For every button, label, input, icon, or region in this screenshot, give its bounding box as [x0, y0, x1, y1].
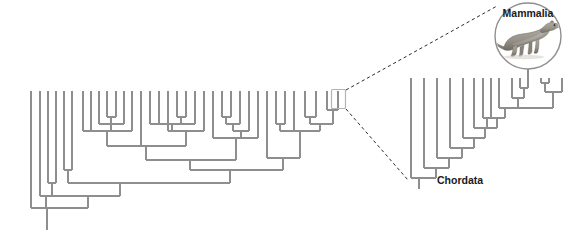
chordata-label: Chordata [437, 174, 483, 186]
mammalia-label: Mammalia [503, 7, 554, 19]
magnifier-connector-top [346, 6, 497, 90]
magnifier-connector-bottom [346, 109, 408, 180]
main-tree-internal-nodes [31, 110, 338, 230]
inset-tree-internal-nodes [411, 83, 562, 189]
main-tree-tips [31, 91, 338, 208]
main-tree [31, 91, 338, 230]
figure-canvas: Mammalia Chordata [0, 0, 580, 236]
magnifier-group [332, 6, 498, 180]
inset-tree [411, 68, 562, 189]
mammalia-inset-circle: Mammalia [490, 3, 562, 69]
phylogenetic-figure: Mammalia Chordata [0, 0, 580, 236]
